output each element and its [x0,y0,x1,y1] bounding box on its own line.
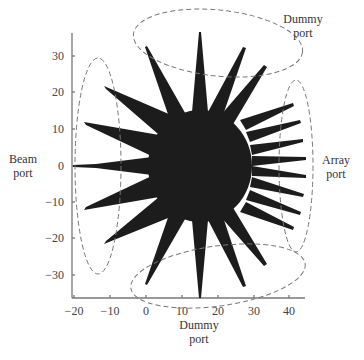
x-tick-label: 0 [143,304,149,318]
y-tick-label: 10 [52,122,64,136]
y-tick-labels: 30 20 10 0 −10 −20 −30 [45,49,64,282]
dummy-port-top-label-line2: port [278,26,328,40]
x-tick-labels: −20 −10 0 10 20 30 40 [65,304,295,318]
y-tick-label: 0 [58,159,64,173]
beam-port-label-line2: port [4,166,42,180]
array-port-label: Array port [316,153,356,181]
y-tick-label: −30 [45,268,64,282]
lens-plot: 30 20 10 0 −10 −20 −30 −20 −10 0 10 20 3… [0,0,364,360]
y-tick-label: 20 [52,85,64,99]
y-tick-label: −10 [45,195,64,209]
x-tick-label: 40 [283,304,295,318]
dummy-port-spike [192,32,208,112]
x-tick-label: 30 [248,304,260,318]
beam-port-spike [73,156,160,176]
dummy-port-top-label-line1: Dummy [278,12,328,26]
beam-port-label-line1: Beam [4,152,42,166]
dummy-port-bottom-label: Dummy port [172,318,226,346]
dummy-port-top-label: Dummy port [278,12,328,40]
array-port-spike [250,139,303,155]
dummy-port-spike [192,220,208,298]
y-tick-label: 30 [52,49,64,63]
dummy-port-bottom-label-line2: port [172,332,226,346]
x-tick-label: −10 [101,304,120,318]
array-port-label-line1: Array [316,153,356,167]
x-tick-label: −20 [65,304,84,318]
array-port-label-line2: port [316,167,356,181]
dummy-port-bottom-label-line1: Dummy [172,318,226,332]
beam-port-label: Beam port [4,152,42,180]
rotman-lens-figure: 30 20 10 0 −10 −20 −30 −20 −10 0 10 20 3… [0,0,364,360]
x-tick-label: 10 [176,304,188,318]
y-tick-label: −20 [45,231,64,245]
